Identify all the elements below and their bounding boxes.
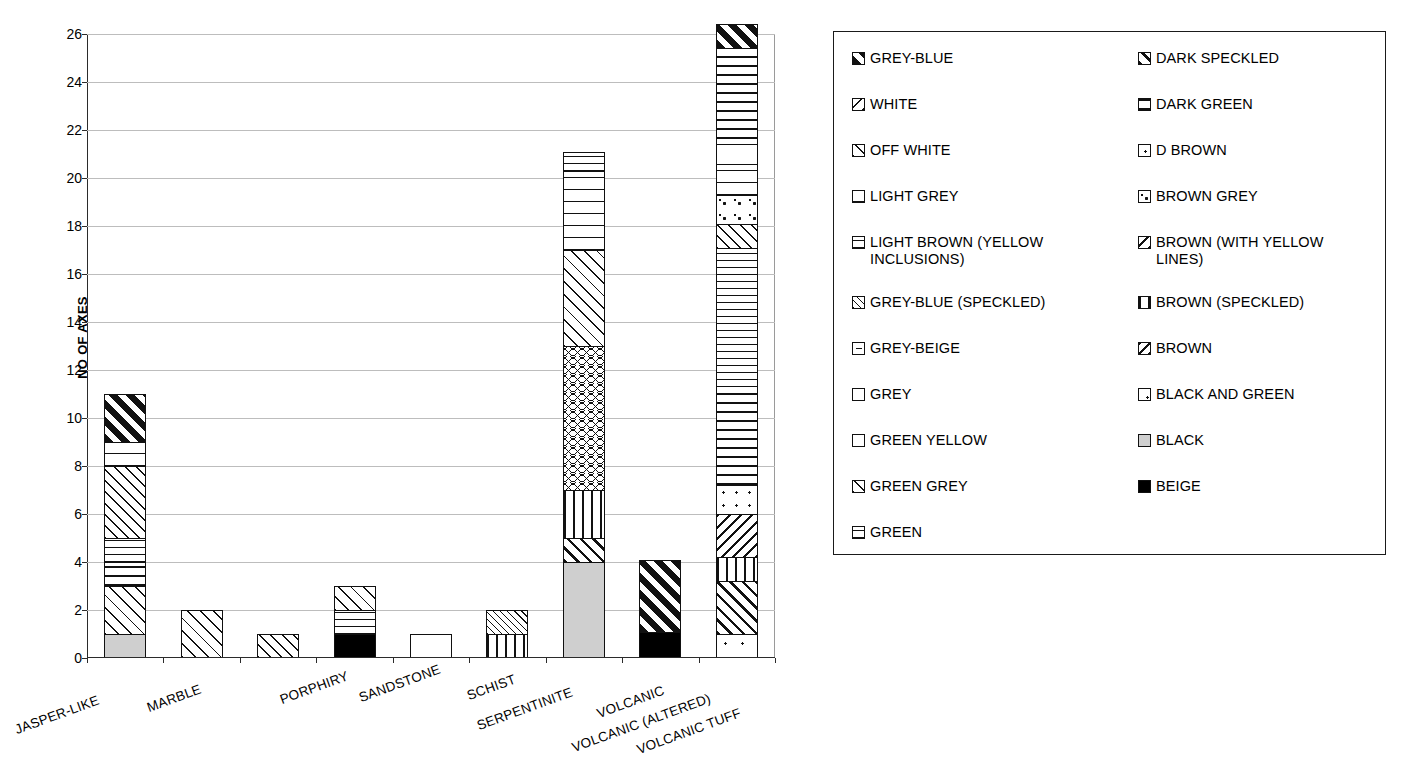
- bar-group: [87, 34, 775, 658]
- bar-segment: [563, 346, 605, 490]
- legend-item[interactable]: GREEN GREY: [852, 478, 1138, 524]
- legend-item[interactable]: DARK SPECKLED: [1138, 50, 1371, 96]
- legend-item[interactable]: GREEN YELLOW: [852, 432, 1138, 478]
- legend-box: GREY-BLUEDARK SPECKLEDWHITEDARK GREENOFF…: [833, 31, 1386, 555]
- legend-grid: GREY-BLUEDARK SPECKLEDWHITEDARK GREENOFF…: [852, 50, 1371, 570]
- legend-item[interactable]: BROWN GREY: [1138, 188, 1371, 234]
- bar-segment: [486, 634, 528, 658]
- x-tick-mark: [163, 658, 164, 663]
- bar-segment: [563, 171, 605, 250]
- y-tick-label: 24: [22, 74, 82, 90]
- bar-segment: [716, 634, 758, 658]
- y-tick-label: 22: [22, 122, 82, 138]
- x-tick-label: SANDSTONE: [357, 662, 443, 705]
- bar-segment: [716, 394, 758, 485]
- bar-segment: [563, 250, 605, 346]
- x-tick-mark: [393, 658, 394, 663]
- bar-segment: [104, 538, 146, 562]
- bar-segment: [716, 581, 758, 634]
- bar-segment: [486, 610, 528, 634]
- bar-stack: [486, 610, 528, 658]
- legend-item[interactable]: DARK GREEN: [1138, 96, 1371, 142]
- legend-item[interactable]: LIGHT BROWN (YELLOW INCLUSIONS): [852, 234, 1138, 294]
- bar-segment: [716, 24, 758, 48]
- legend-label: BROWN (SPECKLED): [1156, 294, 1304, 311]
- y-tick-label: 0: [22, 650, 82, 666]
- x-tick-label: SCHIST: [465, 672, 518, 703]
- legend-item[interactable]: WHITE: [852, 96, 1138, 142]
- legend-swatch-icon: [852, 236, 865, 249]
- y-tick-label: 10: [22, 410, 82, 426]
- bar-segment: [716, 195, 758, 224]
- bar-segment: [104, 466, 146, 538]
- bar-segment: [104, 634, 146, 658]
- legend-item[interactable]: GREY: [852, 386, 1138, 432]
- x-tick-label: JASPER-LIKE: [13, 693, 101, 737]
- x-tick-label: VOLCANIC (ALTERED): [570, 691, 713, 755]
- bar-stack: [257, 634, 299, 658]
- legend-label: GREY: [870, 386, 912, 403]
- bar-segment: [716, 248, 758, 394]
- legend-item[interactable]: BEIGE: [1138, 478, 1371, 524]
- bar-segment: [181, 610, 223, 658]
- legend-label: GREEN GREY: [870, 478, 968, 495]
- legend-swatch-icon: [1138, 342, 1151, 355]
- plot-area: 02468101214161820222426: [87, 34, 775, 658]
- legend-label: OFF WHITE: [870, 142, 951, 159]
- bar-segment: [716, 557, 758, 581]
- legend-item[interactable]: GREY-BLUE: [852, 50, 1138, 96]
- bar-stack: [639, 560, 681, 658]
- legend-item[interactable]: GREY-BLUE (SPECKLED): [852, 294, 1138, 340]
- legend-swatch-icon: [852, 144, 865, 157]
- bar-segment: [104, 586, 146, 634]
- y-tick-label: 20: [22, 170, 82, 186]
- legend-label: DARK GREEN: [1156, 96, 1253, 113]
- legend-swatch-icon: [1138, 480, 1151, 493]
- legend-item[interactable]: LIGHT GREY: [852, 188, 1138, 234]
- legend-swatch-icon: [852, 434, 865, 447]
- legend-item[interactable]: BROWN: [1138, 340, 1371, 386]
- bar-segment: [257, 634, 299, 658]
- legend-label: BLACK: [1156, 432, 1204, 449]
- legend-item[interactable]: OFF WHITE: [852, 142, 1138, 188]
- legend-swatch-icon: [1138, 190, 1151, 203]
- legend-label: BLACK AND GREEN: [1156, 386, 1295, 403]
- legend-item[interactable]: BLACK: [1138, 432, 1371, 478]
- legend-label: GREEN: [870, 524, 922, 541]
- bar-segment: [334, 586, 376, 610]
- legend-label: DARK SPECKLED: [1156, 50, 1279, 67]
- y-tick-label: 16: [22, 266, 82, 282]
- bar-stack: [104, 394, 146, 658]
- legend-item[interactable]: GREEN: [852, 524, 1138, 570]
- bar-stack: [410, 634, 452, 658]
- y-tick-label: 26: [22, 26, 82, 42]
- x-tick-mark: [469, 658, 470, 663]
- legend-swatch-icon: [852, 526, 865, 539]
- bar-segment: [639, 632, 681, 658]
- legend-label: GREEN YELLOW: [870, 432, 987, 449]
- bar-segment: [716, 144, 758, 163]
- y-tick-label: 2: [22, 602, 82, 618]
- x-tick-label: MARBLE: [145, 682, 203, 715]
- x-tick-mark: [546, 658, 547, 663]
- legend-label: BROWN GREY: [1156, 188, 1258, 205]
- legend-item[interactable]: BROWN (SPECKLED): [1138, 294, 1371, 340]
- legend-swatch-icon: [1138, 52, 1151, 65]
- legend-swatch-icon: [852, 388, 865, 401]
- y-tick-label: 14: [22, 314, 82, 330]
- legend-label: GREY-BLUE: [870, 50, 953, 67]
- bar-segment: [104, 442, 146, 466]
- legend-item[interactable]: BROWN (WITH YELLOW LINES): [1138, 234, 1371, 280]
- x-tick-label: VOLCANIC TUFF: [635, 705, 743, 757]
- x-tick-mark: [775, 658, 776, 663]
- legend-item[interactable]: BLACK AND GREEN: [1138, 386, 1371, 432]
- legend-item[interactable]: GREY-BEIGE: [852, 340, 1138, 386]
- bar-segment: [716, 485, 758, 514]
- legend-swatch-icon: [852, 480, 865, 493]
- x-tick-mark: [240, 658, 241, 663]
- bar-segment: [563, 490, 605, 538]
- bar-segment: [563, 562, 605, 658]
- x-tick-mark: [699, 658, 700, 663]
- legend-item[interactable]: D BROWN: [1138, 142, 1371, 188]
- y-tick-label: 18: [22, 218, 82, 234]
